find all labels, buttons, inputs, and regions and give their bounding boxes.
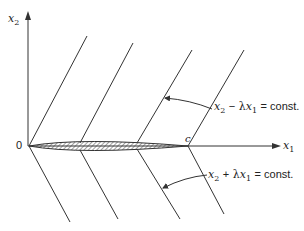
x2-axis — [25, 11, 31, 146]
diagram-canvas — [0, 0, 304, 231]
point-c-label: c — [185, 134, 191, 144]
upper-characteristic-lines — [29, 36, 244, 146]
x2-axis-label: x2 — [8, 13, 19, 24]
lower-characteristic-lines — [29, 146, 224, 222]
lower-leader-arrow — [163, 175, 207, 188]
arrow-right-icon — [272, 143, 281, 149]
upper-leader-arrow — [165, 98, 212, 109]
upper-equation-label: x2 − λx1 = const. — [214, 101, 299, 112]
x1-axis-label: x1 — [283, 140, 294, 151]
arrow-up-icon — [25, 11, 31, 20]
origin-label: 0 — [16, 140, 22, 151]
airfoil-shape — [29, 142, 188, 151]
lower-equation-label: x2 + λx1 = const. — [208, 169, 293, 180]
